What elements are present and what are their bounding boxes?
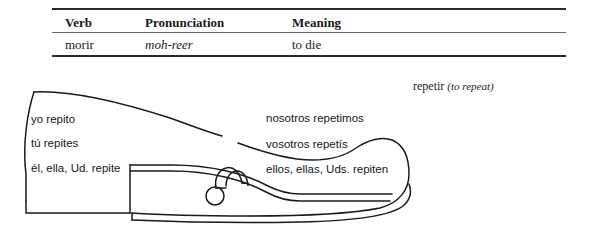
cell-verb: morir: [52, 33, 145, 53]
conjugation-tu: tú repites: [31, 137, 78, 149]
conjugation-yo: yo repito: [31, 113, 75, 125]
table-bottom-rule: [52, 55, 566, 57]
column-header-meaning: Meaning: [292, 10, 566, 31]
shoe-welt-top: [132, 213, 250, 216]
shoe-welt-bottom: [132, 184, 410, 222]
cell-pronunciation: moh-reer: [145, 33, 292, 53]
shoe-verb-diagram: [0, 88, 589, 227]
conjugation-vosotros: vosotros repetís: [266, 138, 348, 150]
conjugation-el-ella-ud: él, ella, Ud. repite: [31, 162, 121, 174]
shoe-heel-back: [26, 201, 130, 213]
vocabulary-table: Verb Pronunciation Meaning morir moh-ree…: [52, 8, 566, 57]
table-header-row: Verb Pronunciation Meaning: [52, 10, 566, 32]
shoe-buckle-icon: [206, 187, 224, 205]
column-header-verb: Verb: [52, 10, 145, 31]
table-row: morir moh-reer to die: [52, 33, 566, 55]
column-header-pronunciation: Pronunciation: [145, 10, 292, 31]
shoe-sole-bottom: [130, 171, 390, 201]
shoe-outline-icon: [0, 88, 589, 227]
shoe-topline-right: [238, 138, 409, 216]
conjugation-ellos-ellas-uds: ellos, ellas, Uds. repiten: [266, 163, 388, 175]
conjugation-nosotros: nosotros repetimos: [266, 112, 364, 124]
cell-meaning: to die: [292, 33, 566, 53]
